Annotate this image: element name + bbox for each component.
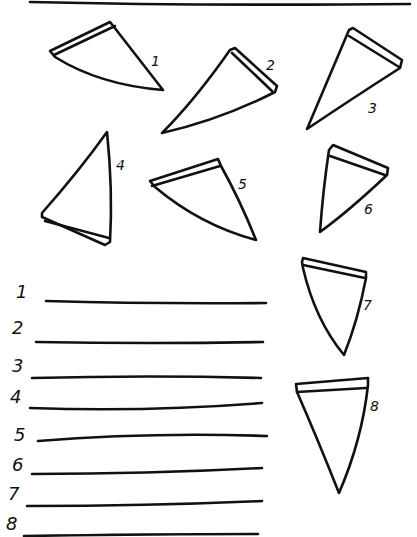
answer-line-5[interactable]: 5 xyxy=(14,424,267,445)
answer-line-1[interactable]: 1 xyxy=(16,281,266,303)
answer-line-4[interactable]: 4 xyxy=(10,386,262,409)
slice-5: 5 xyxy=(150,159,256,240)
slice-label-2: 2 xyxy=(266,57,275,73)
slice-label-5: 5 xyxy=(238,176,247,192)
slice-3: 3 xyxy=(307,28,402,129)
slice-7: 7 xyxy=(302,258,372,355)
line-label-1: 1 xyxy=(16,281,27,302)
line-label-5: 5 xyxy=(14,424,25,445)
line-label-6: 6 xyxy=(12,454,23,475)
answer-line-2[interactable]: 2 xyxy=(12,317,263,343)
answer-line-6[interactable]: 6 xyxy=(12,454,262,475)
slice-label-6: 6 xyxy=(364,201,373,217)
answer-line-7[interactable]: 7 xyxy=(8,483,262,506)
slice-label-3: 3 xyxy=(368,100,377,116)
line-label-8: 8 xyxy=(6,513,17,534)
line-label-7: 7 xyxy=(8,483,20,504)
line-label-2: 2 xyxy=(12,317,23,338)
slice-label-4: 4 xyxy=(116,157,125,173)
slice-label-8: 8 xyxy=(370,398,379,414)
slice-8: 8 xyxy=(296,378,379,493)
slice-label-1: 1 xyxy=(151,53,160,69)
slice-1: 1 xyxy=(50,22,163,90)
worksheet: 1 2 3 4 5 6 7 8 1 xyxy=(0,0,417,537)
answer-line-3[interactable]: 3 xyxy=(12,355,261,378)
slice-6: 6 xyxy=(320,145,388,232)
slice-label-7: 7 xyxy=(363,297,372,313)
line-label-3: 3 xyxy=(12,355,23,376)
answer-line-8[interactable]: 8 xyxy=(6,513,258,536)
slice-4: 4 xyxy=(42,132,125,245)
slice-2: 2 xyxy=(162,48,277,133)
top-rule xyxy=(30,2,410,5)
line-label-4: 4 xyxy=(10,386,21,407)
